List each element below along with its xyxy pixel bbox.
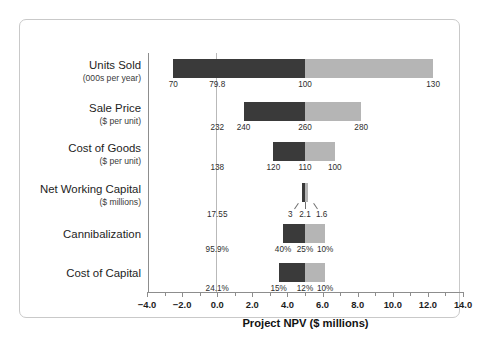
x-tick-minor [165,292,166,296]
x-tick-minor [375,292,376,296]
x-tick-label: 6.0 [316,299,329,310]
category-unit: ($ per unit) [20,156,141,166]
x-tick-major [182,292,183,297]
bar-value-mid: 100 [298,80,312,89]
bar-value-high: 130 [426,80,440,89]
bar-value-low: 3 [288,210,293,219]
x-tick-major [358,292,359,297]
tornado-bar[interactable] [279,263,326,282]
category-unit: ($ millions) [20,197,141,207]
category-name: Cannibalization [20,228,141,241]
chart-page: −4.0−2.00.02.04.06.08.010.012.014.0 Unit… [0,0,479,337]
x-tick-major [393,292,394,297]
x-tick-minor [410,292,411,296]
tornado-bar[interactable] [302,183,307,202]
baseline-value-label: 79.8 [209,80,225,89]
x-tick-minor [235,292,236,296]
bar-value-low: 240 [237,123,251,132]
bar-value-low: 15% [270,284,286,293]
bar-segment-low[interactable] [283,224,305,243]
x-tick-label: 8.0 [351,299,364,310]
tornado-bar[interactable] [283,224,325,243]
category-name: Cost of Goods [20,142,141,155]
bar-value-mid: 12% [297,284,313,293]
tornado-bar[interactable] [273,142,334,161]
baseline-value-label: 95.9% [206,245,229,254]
bar-value-high: 10% [317,245,333,254]
bar-segment-high[interactable] [305,59,433,78]
value-leader-line [305,202,306,209]
bar-value-low: 120 [267,163,281,172]
x-tick-minor [340,292,341,296]
x-tick-label: −2.0 [173,299,192,310]
x-tick-major [428,292,429,297]
bar-value-high: 1.6 [316,210,327,219]
bar-value-mid: 2.1 [299,210,310,219]
x-tick-major [287,292,288,297]
category-unit: (000s per year) [20,73,141,83]
x-tick-label: 14.0 [454,299,472,310]
bar-segment-low[interactable] [173,59,305,78]
bar-value-high: 10% [317,284,333,293]
baseline-value-label: 24.1% [206,284,229,293]
tornado-bar[interactable] [173,59,433,78]
x-tick-label: 10.0 [384,299,402,310]
value-leader-line [313,203,318,209]
baseline-value-label: 17.55 [207,210,228,219]
bar-segment-high[interactable] [305,263,325,282]
x-tick-label: 4.0 [281,299,294,310]
bar-value-mid: 110 [298,163,311,172]
baseline-value-label: 138 [210,163,224,172]
x-axis-title: Project NPV ($ millions) [148,317,463,329]
tornado-bar[interactable] [244,102,362,121]
bar-value-high: 100 [328,163,342,172]
bar-segment-high[interactable] [305,224,325,243]
category-name: Cost of Capital [20,267,141,280]
category-axis-line [148,53,149,292]
bar-value-high: 280 [354,123,368,132]
x-tick-label: 0.0 [211,299,224,310]
x-tick-minor [445,292,446,296]
x-tick-label: −4.0 [138,299,157,310]
chart-frame: −4.0−2.00.02.04.06.08.010.012.014.0 Unit… [19,19,460,318]
category-unit: ($ per unit) [20,116,141,126]
value-leader-line [294,203,299,209]
baseline-value-label: 232 [210,123,224,132]
bar-value-mid: 260 [298,123,312,132]
bar-segment-high[interactable] [305,142,335,161]
bar-segment-low[interactable] [244,102,305,121]
bar-segment-low[interactable] [273,142,305,161]
bar-segment-high[interactable] [305,102,361,121]
tornado-plot: −4.0−2.00.02.04.06.08.010.012.014.0 Unit… [20,20,459,317]
bar-segment-high[interactable] [305,183,308,202]
x-tick-label: 2.0 [246,299,259,310]
bar-value-low: 70 [169,80,178,89]
category-name: Sale Price [20,102,141,115]
bar-segment-low[interactable] [279,263,305,282]
x-tick-major [463,292,464,297]
x-tick-major [147,292,148,297]
bar-value-low: 40% [275,245,291,254]
category-name: Net Working Capital [20,183,141,196]
x-tick-major [252,292,253,297]
x-tick-label: 12.0 [419,299,437,310]
x-tick-minor [200,292,201,296]
bar-value-mid: 25% [297,245,313,254]
category-name: Units Sold [20,59,141,72]
